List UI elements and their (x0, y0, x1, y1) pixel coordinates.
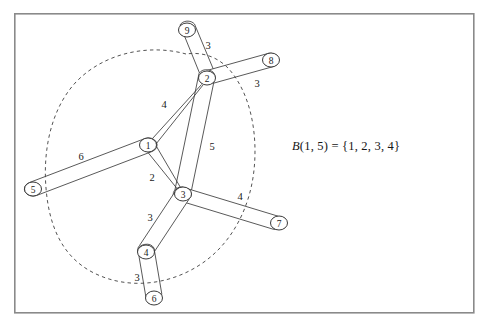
edge-weight-3-4: 3 (147, 212, 152, 223)
node-6[interactable]: 6 (146, 291, 163, 305)
node-2-label: 2 (205, 74, 210, 84)
node-6-label: 6 (152, 294, 157, 304)
edge-weight-4-6: 3 (134, 272, 139, 283)
node-3[interactable]: 3 (175, 187, 192, 201)
edge-1-5-tube (24, 138, 157, 196)
edge-weight-1-2: 4 (161, 99, 167, 110)
ball-formula-set: {1, 2, 3, 4} (342, 139, 400, 153)
edge-weight-3-7: 4 (237, 191, 243, 202)
edge-2-3-tube (175, 70, 215, 196)
edge-1-3-line (148, 153, 177, 189)
ball-formula-function: B (292, 139, 300, 153)
edge-1-5 (24, 138, 157, 196)
edge-weight-2-9: 3 (205, 40, 210, 51)
edge-weight-2-3: 5 (209, 141, 214, 152)
node-7-label: 7 (277, 219, 282, 229)
node-8-label: 8 (269, 56, 274, 66)
node-1[interactable]: 1 (140, 138, 157, 152)
node-1-label: 1 (146, 141, 151, 151)
node-8[interactable]: 8 (263, 53, 280, 67)
ball-formula-equals: = (328, 139, 342, 153)
node-3-label: 3 (181, 190, 186, 200)
node-5-label: 5 (31, 185, 36, 195)
node-4[interactable]: 4 (138, 245, 155, 259)
node-4-label: 4 (144, 248, 149, 258)
figure-root: 4 2 6 5 3 3 3 4 3 9 8 2 (0, 0, 490, 327)
node-9[interactable]: 9 (179, 23, 196, 37)
node-7[interactable]: 7 (271, 216, 288, 230)
graph-figure-svg: 4 2 6 5 3 3 3 4 3 9 8 2 (0, 0, 490, 327)
node-5[interactable]: 5 (25, 182, 42, 196)
edge-weight-1-5: 6 (78, 151, 83, 162)
ball-formula-annotation: B(1, 5) = {1, 2, 3, 4} (292, 139, 400, 154)
ball-formula-args: (1, 5) (300, 139, 328, 153)
edge-weight-1-3: 2 (149, 172, 154, 183)
edge-2-3 (175, 70, 215, 196)
edge-weight-2-8: 3 (254, 78, 259, 89)
node-9-label: 9 (185, 26, 190, 36)
node-2[interactable]: 2 (199, 71, 216, 85)
tube-edges-group (24, 21, 282, 300)
